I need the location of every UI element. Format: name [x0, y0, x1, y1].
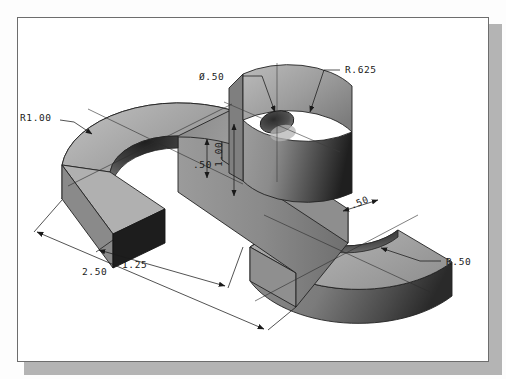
- drawing-page: R1.00 Ø.50 R.625 R.50 1.00 .50 .50 2.50 …: [0, 0, 506, 379]
- label-r-625: R.625: [345, 64, 377, 75]
- dim-1-25-ext-b: [228, 247, 243, 288]
- label-r-50: R.50: [446, 256, 471, 267]
- boss-side-face: [243, 120, 352, 202]
- boss-back-wall: [229, 74, 243, 181]
- dim-2-50-ext-b: [268, 307, 296, 330]
- label-r1-00: R1.00: [20, 112, 52, 123]
- label-dia-50: Ø.50: [199, 71, 224, 82]
- isometric-drawing-canvas: R1.00 Ø.50 R.625 R.50 1.00 .50 .50 2.50 …: [0, 0, 506, 379]
- dim-1-25-line: [99, 250, 225, 286]
- label-dim-1-00: 1.00: [213, 142, 224, 167]
- dim-2-50-ext-a: [34, 200, 62, 232]
- label-dim-50-v: .50: [193, 159, 212, 170]
- label-dim-50-w: .50: [349, 194, 371, 211]
- part-solid-body: [62, 60, 452, 323]
- label-dim-2-50: 2.50: [82, 266, 107, 277]
- label-dim-1-25: 1.25: [122, 259, 147, 270]
